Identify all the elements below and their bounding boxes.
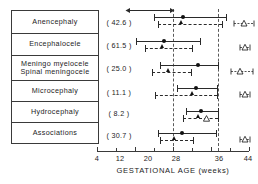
marker-triangle-associations <box>172 136 176 140</box>
x-ticklabel-12: 12 <box>111 154 129 163</box>
series-dashed-range-associations <box>160 140 193 141</box>
marker-dot-anencephaly <box>181 15 185 19</box>
series-dashed-range-encephalocele <box>145 48 192 49</box>
marker-triangle-anencephaly <box>179 20 183 24</box>
x-axis-line <box>97 151 249 152</box>
x-ticklabel-44: 44 <box>239 154 257 163</box>
marker-open-triangle-hydrocephaly <box>203 115 210 122</box>
plot-area: 4 12 20 28 36 44 GESTATIONAL AGE (weeks) <box>0 0 258 184</box>
series-solid-range-encephalocele <box>136 41 200 42</box>
cap-right-dashed-meningo-myelocele <box>191 69 192 76</box>
reference-line-36w <box>218 9 219 151</box>
cap-left-dashed-hydrocephaly <box>183 115 184 122</box>
marker-dot-associations <box>180 131 184 135</box>
cap-right-dashed-encephalocele <box>192 45 193 52</box>
marker-dot-hydrocephaly <box>199 109 203 113</box>
cap-right-dashed-associations <box>193 137 194 144</box>
cap-left-dashed-meningo-myelocele <box>152 69 153 76</box>
series-dashed-range-microcephaly <box>155 95 217 96</box>
x-tick-36 <box>249 147 250 151</box>
cap-left-dashed-associations <box>160 137 161 144</box>
cap-right-solid-hydrocephaly <box>218 108 219 115</box>
inset-group-microcephaly <box>238 90 252 99</box>
cap-right-solid-microcephaly <box>217 85 218 92</box>
cap-left-solid-anencephaly <box>154 14 155 21</box>
cap-right-solid-encephalocele <box>200 38 201 45</box>
x-tick-minor-16 <box>154 148 155 151</box>
series-dashed-range-anencephaly <box>158 24 222 25</box>
x-tick-minor-8 <box>116 148 117 151</box>
cap-left-solid-encephalocele <box>136 38 137 45</box>
cap-left-solid-associations <box>158 130 159 137</box>
inset-group-encephalocele <box>238 43 252 52</box>
cap-right-solid-associations <box>216 130 217 137</box>
x-ticklabel-4: 4 <box>88 154 106 163</box>
cap-left-solid-microcephaly <box>177 85 178 92</box>
series-dashed-range-meningo-myelocele <box>152 72 191 73</box>
cap-left-solid-hydrocephaly <box>186 108 187 115</box>
marker-dot-encephalocele <box>162 39 166 43</box>
marker-triangle-encephalocele <box>160 44 164 48</box>
inset-group-associations <box>238 135 252 144</box>
marker-dot-meningo-myelocele <box>196 63 200 67</box>
cap-left-dashed-microcephaly <box>155 92 156 99</box>
inset-group-meningo-myelocele <box>229 67 255 76</box>
series-solid-range-anencephaly <box>154 17 226 18</box>
cap-left-dashed-encephalocele <box>145 45 146 52</box>
x-tick-minor-24 <box>192 148 193 151</box>
cap-left-solid-meningo-myelocele <box>160 62 161 69</box>
x-tick-12 <box>135 147 136 151</box>
inset-group-anencephaly <box>232 19 256 28</box>
annotation-double-arrow <box>125 6 175 15</box>
reference-line-24w <box>173 9 174 151</box>
x-tick-minor-32 <box>230 148 231 151</box>
marker-triangle-meningo-myelocele <box>166 68 170 72</box>
marker-triangle-microcephaly <box>190 91 194 95</box>
x-ticklabel-20: 20 <box>139 154 157 163</box>
x-tick-20 <box>173 147 174 151</box>
cap-right-dashed-anencephaly <box>222 21 223 28</box>
figure-root: Anencephaly Encephalocele Meningo myeloc… <box>0 0 258 184</box>
series-solid-range-associations <box>158 133 216 134</box>
x-ticklabel-36: 36 <box>210 154 228 163</box>
series-solid-range-meningo-myelocele <box>160 65 218 66</box>
series-dashed-range-hydrocephaly <box>183 118 218 119</box>
x-tick-28 <box>211 147 212 151</box>
cap-left-dashed-anencephaly <box>158 21 159 28</box>
marker-dot-microcephaly <box>194 86 198 90</box>
x-tick-4 <box>97 147 98 151</box>
cap-right-solid-meningo-myelocele <box>218 62 219 69</box>
marker-triangle-hydrocephaly <box>196 114 200 118</box>
cap-right-dashed-hydrocephaly <box>218 115 219 122</box>
x-axis-title: GESTATIONAL AGE (weeks) <box>97 166 249 175</box>
cap-right-solid-anencephaly <box>226 14 227 21</box>
x-ticklabel-28: 28 <box>167 154 185 163</box>
cap-right-dashed-microcephaly <box>217 92 218 99</box>
